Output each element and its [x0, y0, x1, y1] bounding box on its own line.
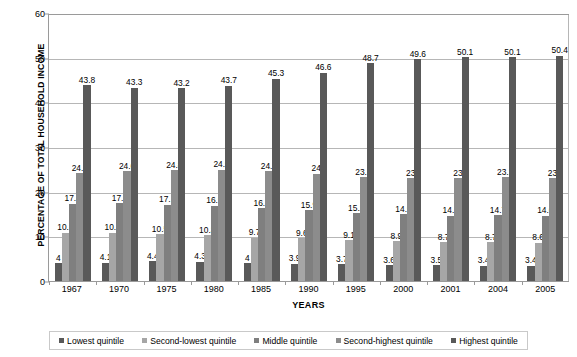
bar[interactable]: 43.3: [131, 88, 138, 281]
bar[interactable]: 14.6: [542, 216, 549, 281]
bar[interactable]: 23.2: [502, 177, 509, 281]
bar-slot: 16.9: [211, 14, 218, 281]
bar[interactable]: 9.1: [345, 240, 352, 281]
bar[interactable]: 14.6: [447, 216, 454, 281]
bar-group: 4.110.817.424.643.3: [96, 14, 143, 281]
bar[interactable]: 3.4: [527, 266, 534, 281]
bar[interactable]: 16.3: [258, 208, 265, 281]
bar[interactable]: 24.8: [171, 170, 178, 281]
bar[interactable]: 3.7: [338, 264, 345, 281]
bars: 4.310.316.924.943.7: [191, 14, 238, 281]
bar-group: 3.58.714.62350.1: [427, 14, 474, 281]
bar-slot: 8.9: [393, 14, 400, 281]
bar[interactable]: 4.3: [196, 262, 203, 281]
bar-groups: 410.817.324.243.84.110.817.424.643.34.41…: [49, 14, 569, 281]
bar-value-label: 43.2: [173, 79, 189, 87]
bar-slot: 4.4: [149, 14, 156, 281]
bar-slot: 50.1: [509, 14, 516, 281]
bar[interactable]: 23: [407, 178, 414, 281]
bar[interactable]: 15.2: [353, 213, 360, 281]
bar-group: 49.716.324.645.3: [238, 14, 285, 281]
bar[interactable]: 9.7: [251, 238, 258, 281]
bar-group: 3.48.714.723.250.1: [474, 14, 521, 281]
bar[interactable]: 10.3: [204, 235, 211, 281]
bar[interactable]: 43.7: [225, 86, 232, 281]
bar[interactable]: 24.2: [76, 173, 83, 281]
bar[interactable]: 8.7: [440, 242, 447, 281]
bar[interactable]: 3.5: [433, 265, 440, 281]
bar[interactable]: 17.4: [116, 203, 123, 281]
bar-group: 3.68.914.92349.6: [380, 14, 427, 281]
bar[interactable]: 3.9: [291, 264, 298, 281]
bar[interactable]: 14.7: [494, 215, 501, 281]
legend-item[interactable]: Second-lowest quintile: [142, 336, 236, 346]
bar[interactable]: 24.6: [123, 171, 130, 281]
bar[interactable]: 4: [55, 263, 62, 281]
legend-item[interactable]: Highest quintile: [451, 336, 518, 346]
bar-slot: 10.5: [156, 14, 163, 281]
bar-slot: 4.1: [102, 14, 109, 281]
bars: 4.110.817.424.643.3: [96, 14, 143, 281]
bar[interactable]: 8.6: [535, 243, 542, 281]
bar-slot: 3.9: [291, 14, 298, 281]
bar-chart: PERCENTAGE OF TOTAL HOUSEHOLD INCOME 010…: [0, 0, 577, 357]
legend-item[interactable]: Lowest quintile: [59, 336, 124, 346]
legend-item[interactable]: Middle quintile: [254, 336, 317, 346]
bar[interactable]: 16.9: [211, 206, 218, 281]
bar[interactable]: 17.1: [164, 205, 171, 281]
legend-item[interactable]: Second-highest quintile: [336, 336, 433, 346]
bar[interactable]: 8.7: [487, 242, 494, 281]
bar-slot: 4: [244, 14, 251, 281]
bar[interactable]: 43.2: [178, 88, 185, 281]
bar[interactable]: 10.8: [109, 233, 116, 281]
bar[interactable]: 45.3: [272, 79, 279, 281]
chart-legend: Lowest quintileSecond-lowest quintileMid…: [49, 331, 528, 350]
x-tick-label: 2004: [474, 284, 521, 294]
bar[interactable]: 23: [454, 178, 461, 281]
bar-slot: 24.6: [123, 14, 130, 281]
bar-slot: 4.3: [196, 14, 203, 281]
bar[interactable]: 23: [549, 178, 556, 281]
bars: 3.48.714.723.250.1: [474, 14, 521, 281]
bar[interactable]: 15.9: [305, 210, 312, 281]
bar[interactable]: 3.4: [480, 266, 487, 281]
bar[interactable]: 49.6: [414, 59, 421, 281]
bar[interactable]: 48.7: [367, 63, 374, 281]
bar[interactable]: 10.5: [156, 234, 163, 281]
bar[interactable]: 14.9: [400, 214, 407, 281]
legend-item-label: Second-highest quintile: [344, 336, 433, 346]
bar[interactable]: 24: [313, 174, 320, 281]
bar-slot: 3.6: [386, 14, 393, 281]
x-tick-label: 2005: [522, 284, 569, 294]
bar[interactable]: 50.1: [462, 57, 469, 281]
bar-slot: 45.3: [272, 14, 279, 281]
bar[interactable]: 4.1: [102, 263, 109, 281]
bar[interactable]: 4.4: [149, 261, 156, 281]
bar[interactable]: 46.6: [320, 73, 327, 281]
plot-area: 0102030405060 410.817.324.243.84.110.817…: [48, 14, 569, 282]
legend-swatch-icon: [451, 338, 456, 343]
bar-slot: 14.9: [400, 14, 407, 281]
bar[interactable]: 43.8: [83, 85, 90, 281]
bar[interactable]: 9.6: [298, 238, 305, 281]
bar[interactable]: 24.9: [218, 170, 225, 281]
bar[interactable]: 4: [244, 263, 251, 281]
bar-slot: 8.6: [535, 14, 542, 281]
bar[interactable]: 24.6: [265, 171, 272, 281]
bar[interactable]: 50.1: [509, 57, 516, 281]
bar[interactable]: 23.3: [360, 177, 367, 281]
bar[interactable]: 17.3: [69, 204, 76, 281]
bars: 3.58.714.62350.1: [427, 14, 474, 281]
bar[interactable]: 3.6: [386, 265, 393, 281]
bar[interactable]: 50.4: [556, 56, 563, 281]
legend-swatch-icon: [59, 338, 64, 343]
bar-value-label: 4: [245, 254, 250, 262]
bar[interactable]: 10.8: [62, 233, 69, 281]
x-tick-label: 2000: [380, 284, 427, 294]
bar-slot: 10.8: [62, 14, 69, 281]
bar-slot: 15.9: [305, 14, 312, 281]
bar-slot: 17.4: [116, 14, 123, 281]
bar-slot: 10.8: [109, 14, 116, 281]
bar-value-label: 45.3: [268, 69, 284, 77]
bar[interactable]: 8.9: [393, 241, 400, 281]
